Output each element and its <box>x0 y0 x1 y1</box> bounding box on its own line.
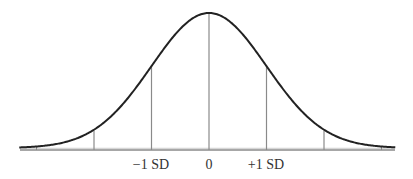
x-axis <box>20 147 395 151</box>
label-plus-one-sd: +1 SD <box>248 157 284 172</box>
normal-distribution-chart: −1 SD 0 +1 SD <box>0 0 413 179</box>
bell-curve <box>19 13 395 147</box>
label-zero: 0 <box>206 157 213 172</box>
chart-canvas: −1 SD 0 +1 SD <box>0 0 413 179</box>
label-minus-one-sd: −1 SD <box>133 157 169 172</box>
sd-reference-lines <box>94 14 324 150</box>
